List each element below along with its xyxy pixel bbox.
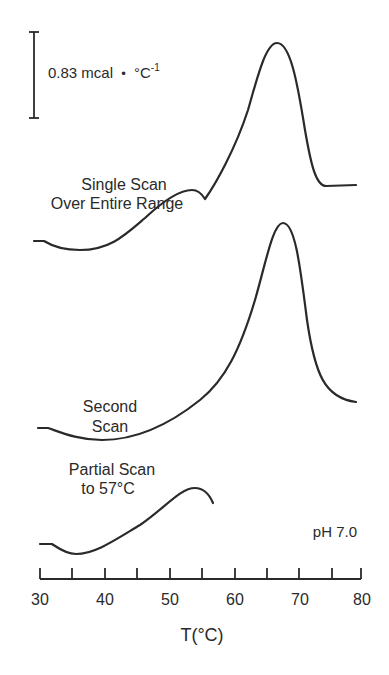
x-axis-title: T(°C) [180, 625, 223, 645]
x-tick-80: 80 [353, 591, 371, 608]
scale-bar [29, 32, 39, 118]
curve-partial-scan-label-1: Partial Scan [69, 461, 155, 478]
dsc-chart: 0.83 mcal • °C-1 Single Scan Over Entire… [0, 0, 389, 675]
curve-partial-scan-label-2: to 57°C [81, 480, 135, 497]
ph-annotation: pH 7.0 [313, 523, 357, 540]
x-tick-60: 60 [226, 591, 244, 608]
curve-partial-scan [40, 488, 213, 554]
x-tick-labels: 30 40 50 60 70 80 [31, 591, 371, 608]
x-tick-30: 30 [31, 591, 49, 608]
curve-single-scan-label-2: Over Entire Range [51, 195, 184, 212]
curve-second-scan-label-2: Scan [92, 418, 128, 435]
x-tick-40: 40 [96, 591, 114, 608]
x-tick-70: 70 [291, 591, 309, 608]
x-axis [40, 568, 361, 579]
curve-single-scan-label-1: Single Scan [81, 176, 166, 193]
scale-bar-label: 0.83 mcal • °C-1 [48, 62, 160, 81]
curve-second-scan-label-1: Second [83, 398, 137, 415]
x-tick-50: 50 [161, 591, 179, 608]
